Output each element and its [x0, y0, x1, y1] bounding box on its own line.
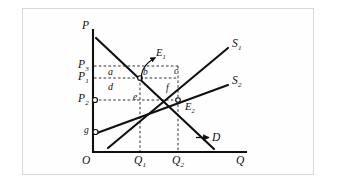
point-c-label: c	[174, 67, 178, 77]
price-tick-p3-base: P	[78, 58, 85, 70]
equilibrium-e1-sub: 1	[163, 53, 166, 60]
equilibrium-e1-label: E1	[156, 48, 166, 59]
equilibrium-e2-label: E2	[185, 102, 195, 113]
supply-curve-s1-label: S1	[232, 38, 241, 50]
area-a-label: a	[108, 67, 113, 77]
equilibrium-e1-base: E	[156, 47, 162, 58]
price-tick-p2: P2	[78, 93, 89, 105]
supply-s2-base: S	[232, 74, 238, 86]
y-axis-label: P	[82, 20, 89, 32]
equilibrium-e2-base: E	[185, 101, 191, 112]
point-e-label: e	[133, 93, 137, 103]
supply-s1-base: S	[232, 37, 238, 49]
marker-p2-intercept	[93, 98, 98, 103]
price-tick-p1: P1	[78, 71, 89, 83]
supply-s2-sub: 2	[238, 81, 242, 89]
supply-curve-s2	[97, 85, 228, 133]
quantity-tick-q1-sub: 1	[143, 161, 147, 169]
price-tick-p2-base: P	[78, 92, 85, 104]
marker-point-e2	[176, 98, 181, 103]
area-d-label: d	[108, 82, 113, 92]
x-axis-label: Q	[236, 155, 244, 167]
price-tick-p3: P3	[78, 59, 89, 71]
demand-curve-label: D	[212, 132, 220, 144]
quantity-tick-q2: Q2	[172, 155, 184, 167]
supply-demand-chart	[0, 0, 338, 188]
equilibrium-e2-sub: 2	[192, 107, 195, 114]
quantity-tick-q2-base: Q	[172, 154, 180, 166]
supply-s1-sub: 1	[238, 44, 242, 52]
quantity-tick-q1-base: Q	[134, 154, 142, 166]
figure-page: P Q O P3 P1 P2 Q1 Q2 S1 S2 D E1 E2 b c e…	[0, 0, 338, 188]
origin-label: O	[82, 155, 90, 167]
point-f-label: f	[166, 84, 169, 94]
price-tick-p2-sub: 2	[85, 99, 89, 107]
point-g-label: g	[84, 126, 89, 136]
price-tick-p1-base: P	[78, 70, 85, 82]
price-tick-p1-sub: 1	[85, 77, 89, 85]
supply-curve-s1	[108, 48, 228, 148]
demand-curve	[96, 38, 214, 149]
point-b-label: b	[143, 68, 148, 78]
supply-curve-s2-label: S2	[232, 75, 241, 87]
quantity-tick-q2-sub: 2	[181, 161, 185, 169]
marker-g-intercept	[93, 130, 98, 135]
axes-group	[93, 30, 246, 152]
quantity-tick-q1: Q1	[134, 155, 146, 167]
